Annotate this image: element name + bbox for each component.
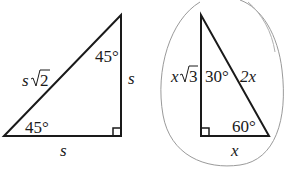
bottom-angle-label: 45° bbox=[25, 118, 49, 137]
right-angle-marker bbox=[201, 128, 209, 136]
right-angle-marker bbox=[113, 128, 121, 136]
bottom-leg-label: x bbox=[230, 141, 239, 160]
right-leg-label: s bbox=[128, 69, 135, 88]
top-angle-label: 30° bbox=[205, 67, 229, 86]
left-leg-label: x 3 bbox=[170, 66, 198, 86]
left-leg-variable: x bbox=[170, 67, 179, 86]
bottom-angle-label: 60° bbox=[232, 117, 256, 136]
hypotenuse-root: 2 bbox=[40, 71, 49, 90]
oval-stroke-overlap bbox=[248, 2, 275, 52]
hypotenuse-label: s 2 bbox=[22, 70, 50, 90]
special-right-triangles-diagram: 45° 45° s s s 2 30° 2x 60° x x 3 bbox=[0, 0, 288, 172]
left-leg-root: 3 bbox=[189, 67, 198, 86]
triangle-45-45-90: 45° 45° s s s 2 bbox=[4, 15, 135, 160]
top-angle-label: 45° bbox=[95, 47, 119, 66]
hypotenuse-label: 2x bbox=[240, 67, 257, 86]
triangle-30-60-90: 30° 2x 60° x x 3 bbox=[170, 15, 269, 160]
bottom-leg-label: s bbox=[60, 141, 67, 160]
hypotenuse-variable: s bbox=[22, 71, 29, 90]
